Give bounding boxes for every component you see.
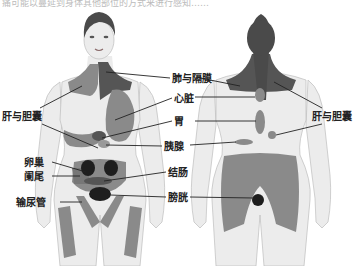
- front-figure: [35, 12, 164, 266]
- label-stomach: 胃: [174, 116, 184, 127]
- label-appendix: 阑尾: [24, 171, 44, 182]
- label-ureter: 输尿管: [16, 197, 46, 208]
- label-heart: 心脏: [174, 93, 194, 104]
- label-lung-diaphragm: 肺与隔膜: [172, 73, 212, 84]
- label-ovary: 卵巢: [24, 157, 44, 168]
- referred-pain-diagram: [0, 0, 356, 266]
- label-bladder: 膀胱: [168, 192, 188, 203]
- back-figure: [191, 14, 330, 266]
- label-colon: 结肠: [168, 167, 188, 178]
- label-liver-gallbladder-front: 肝与胆囊: [2, 111, 42, 122]
- label-liver-gallbladder-back: 肝与胆囊: [312, 111, 352, 122]
- label-pancreas: 胰腺: [164, 141, 184, 152]
